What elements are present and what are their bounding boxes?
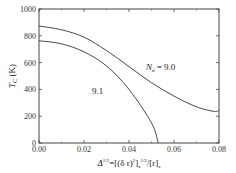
annotation-nd-9-0: Nd = 9.0 <box>145 62 176 73</box>
x-tick-label: 0.04 <box>122 145 136 154</box>
x-tick-label: 0.06 <box>167 145 181 154</box>
annotation-9-1: 9.1 <box>92 86 103 96</box>
y-tick-label: 200 <box>24 112 36 121</box>
plot-frame <box>39 9 219 143</box>
y-tick-label: 0 <box>32 139 36 148</box>
series-line-0 <box>39 26 219 112</box>
chart: 0.000.020.040.060.0802004006008001000 TC… <box>0 0 236 173</box>
x-tick-label: 0.02 <box>77 145 91 154</box>
y-tick-label: 1000 <box>20 5 36 14</box>
y-tick-label: 800 <box>24 32 36 41</box>
y-tick-label: 600 <box>24 59 36 68</box>
x-axis-title: Δ1/2=[(δ r)2]a1/2/[r]a <box>96 158 161 169</box>
plot-area: 0.000.020.040.060.0802004006008001000 <box>20 5 226 154</box>
y-axis-title: TC (K) <box>7 64 18 88</box>
y-tick-label: 400 <box>24 85 36 94</box>
x-tick-label: 0.08 <box>212 145 226 154</box>
